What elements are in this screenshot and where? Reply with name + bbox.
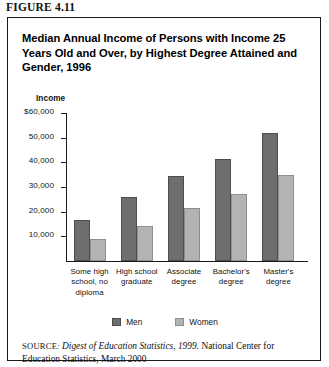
bar-women xyxy=(184,208,200,261)
y-axis-tick: 50,000 xyxy=(61,138,66,139)
source-kicker: SOURCE: xyxy=(22,341,60,351)
bar-men xyxy=(168,176,184,261)
bar-women xyxy=(278,175,294,261)
y-axis-tick: $60,000 xyxy=(61,113,66,114)
source-note: SOURCE: Digest of Education Statistics, … xyxy=(22,340,310,365)
y-axis-tick: 20,000 xyxy=(61,212,66,213)
y-axis-tick: 30,000 xyxy=(61,187,66,188)
legend-swatch-men xyxy=(112,318,121,326)
y-axis-tick: 40,000 xyxy=(61,162,66,163)
figure-container: FIGURE 4.11 Median Annual Income of Pers… xyxy=(0,0,329,367)
figure-number-label: FIGURE 4.11 xyxy=(0,0,329,16)
bar-men xyxy=(215,159,231,261)
legend-label: Men xyxy=(126,317,142,327)
y-axis-tick-label: 10,000 xyxy=(29,230,54,239)
bar-women xyxy=(231,194,247,261)
y-axis-tick-label: 30,000 xyxy=(29,181,54,190)
legend-item-women: Women xyxy=(175,317,217,327)
plot-area: $60,00050,00040,00030,00020,00010,000 xyxy=(66,113,302,261)
bar-women xyxy=(90,239,106,261)
source-title: Digest of Education Statistics, 1999. xyxy=(62,341,199,351)
y-axis-tick-label: $60,000 xyxy=(24,107,54,116)
plot-wrapper: $60,00050,00040,00030,00020,00010,000 So… xyxy=(8,18,322,362)
bar-group xyxy=(160,176,207,261)
bar-men xyxy=(121,197,137,261)
bar-group xyxy=(113,197,160,261)
bar-group xyxy=(66,220,113,261)
figure-box: Median Annual Income of Persons with Inc… xyxy=(7,17,321,361)
bar-women xyxy=(137,226,153,261)
legend-swatch-women xyxy=(175,318,184,326)
bar-men xyxy=(262,133,278,261)
y-axis-tick-label: 20,000 xyxy=(29,206,54,215)
y-axis-tick-label: 50,000 xyxy=(29,132,54,141)
chart-legend: MenWomen xyxy=(8,317,322,327)
bar-men xyxy=(74,220,90,261)
y-axis-tick-label: 40,000 xyxy=(29,156,54,165)
legend-item-men: Men xyxy=(112,317,142,327)
bar-group xyxy=(208,159,255,261)
legend-label: Women xyxy=(189,317,217,327)
bar-group xyxy=(255,133,302,261)
x-axis-category-label: Master'sdegree xyxy=(249,267,308,288)
x-axis-line xyxy=(66,261,308,262)
